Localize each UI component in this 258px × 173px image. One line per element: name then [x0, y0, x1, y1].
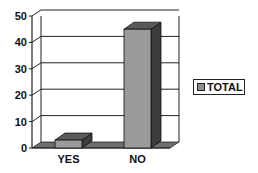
x-category-label: NO: [129, 153, 146, 165]
y-tick-label: 0: [21, 142, 27, 154]
y-tick-label: 50: [15, 10, 27, 22]
x-category-label: YES: [57, 153, 79, 165]
legend: TOTAL: [193, 79, 245, 95]
gridline-diagonal: [32, 63, 41, 69]
y-tick-label: 20: [15, 89, 27, 101]
gridline-diagonal: [32, 10, 41, 16]
gridline-diagonal: [32, 36, 41, 42]
bar-side-no: [151, 22, 161, 148]
bar-no: [124, 29, 151, 148]
y-tick-label: 10: [15, 116, 27, 128]
y-tick-label: 30: [15, 63, 27, 75]
y-tick-label: 40: [15, 36, 27, 48]
legend-swatch-total: [197, 83, 205, 91]
legend-label-total: TOTAL: [207, 81, 243, 93]
bar-yes: [55, 140, 82, 148]
gridline-diagonal: [32, 89, 41, 95]
gridline-diagonal: [32, 116, 41, 122]
